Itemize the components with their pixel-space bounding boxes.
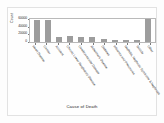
bar — [123, 40, 129, 42]
bar — [56, 37, 62, 42]
x-tick-label: Influenza and Pneumonia — [112, 45, 135, 76]
y-axis-tick-labels: 0200004000060000 — [12, 17, 28, 44]
bar — [101, 39, 107, 42]
x-tick-label: Cancer — [43, 45, 51, 55]
bar — [145, 19, 151, 42]
x-tick-label: Other — [147, 45, 154, 53]
y-tick-label: 0 — [25, 40, 27, 43]
plot-area — [29, 18, 156, 43]
x-axis-tick-labels: Heart DiseaseCancerAccidentChronic Lower… — [29, 45, 156, 107]
bar — [45, 20, 51, 42]
bar-series — [30, 19, 155, 42]
bar — [67, 36, 73, 42]
bar — [112, 40, 118, 42]
x-tick-label: Suicide — [135, 45, 143, 55]
y-tick-label: 60000 — [18, 17, 27, 20]
y-tick-label: 40000 — [18, 25, 27, 28]
chart-figure: Count 0200004000060000 Heart DiseaseCanc… — [0, 0, 164, 123]
bar — [78, 37, 84, 42]
x-tick-label: Diabetes — [100, 45, 110, 57]
bar — [89, 37, 95, 42]
x-axis-title: Cause of Death — [0, 104, 164, 109]
y-tick-label: 20000 — [18, 32, 27, 35]
bar — [134, 40, 140, 42]
bar — [34, 20, 40, 42]
x-tick-label: Accident — [54, 45, 63, 57]
